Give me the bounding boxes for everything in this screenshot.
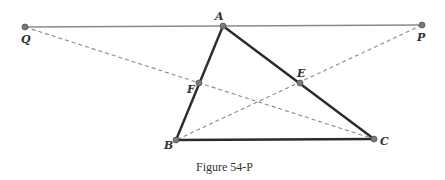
point-p-marker [419,22,425,28]
geometry-figure: QAPFEBC [0,0,445,180]
point-labels: QAPFEBC [21,10,426,152]
point-p-label: P [416,31,426,44]
segment-bc [176,139,374,140]
caption-text: Figure 54-P [196,160,253,174]
points [22,22,425,143]
point-e-label: E [296,67,306,80]
figure-caption: Figure 54-P [0,160,445,175]
point-f-marker [196,80,202,86]
point-b-marker [173,137,179,143]
dashed-lines [25,25,422,140]
point-a-label: A [214,10,224,23]
point-f-label: F [186,83,196,96]
solid-lines [25,25,422,140]
point-c-marker [371,136,377,142]
point-q-label: Q [21,33,31,46]
point-b-label: B [163,139,173,152]
point-c-label: C [380,135,389,148]
point-a-marker [220,23,226,29]
point-q-marker [22,24,28,30]
point-e-marker [297,80,303,86]
